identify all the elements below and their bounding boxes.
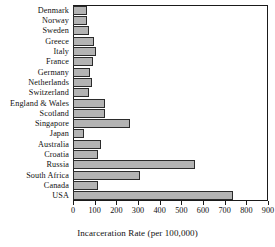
bar-row (0, 57, 275, 66)
bar-row (0, 140, 275, 149)
bar-row (0, 78, 275, 87)
bar (73, 109, 105, 118)
x-tick-mark (160, 201, 161, 205)
x-tick-mark (268, 201, 269, 205)
bar (73, 6, 87, 15)
bar (73, 160, 195, 169)
bar-row (0, 191, 275, 200)
bar-row (0, 129, 275, 138)
bar (73, 181, 98, 190)
bar (73, 16, 87, 25)
bar-row (0, 88, 275, 97)
x-tick-mark (73, 201, 74, 205)
bar-row (0, 119, 275, 128)
bar-row (0, 16, 275, 25)
bar (73, 78, 92, 87)
bar (73, 119, 130, 128)
bar (73, 150, 98, 159)
bar (73, 37, 94, 46)
bar-row (0, 171, 275, 180)
bar-row (0, 99, 275, 108)
x-tick-mark (138, 201, 139, 205)
x-tick-label: 900 (248, 206, 275, 216)
bar (73, 171, 140, 180)
bar-row (0, 150, 275, 159)
bar (73, 140, 101, 149)
bar-row (0, 160, 275, 169)
x-tick-mark (181, 201, 182, 205)
bar (73, 191, 233, 200)
x-tick-mark (246, 201, 247, 205)
bar (73, 57, 93, 66)
x-axis-title: Incarceration Rate (per 100,000) (0, 228, 275, 238)
x-tick-mark (95, 201, 96, 205)
bar-row (0, 26, 275, 35)
x-tick-mark (116, 201, 117, 205)
bar-row (0, 109, 275, 118)
bar-row (0, 68, 275, 77)
bar (73, 47, 96, 56)
x-tick-mark (203, 201, 204, 205)
bar (73, 88, 89, 97)
x-tick-mark (225, 201, 226, 205)
bar-row (0, 37, 275, 46)
bar (73, 129, 84, 138)
bar (73, 99, 105, 108)
bar (73, 26, 89, 35)
bar-row (0, 6, 275, 15)
bar-row (0, 181, 275, 190)
bar-row (0, 47, 275, 56)
bar (73, 68, 90, 77)
incarceration-rate-bar-chart: DenmarkNorwaySwedenGreeceItalyFranceGerm… (0, 0, 275, 247)
